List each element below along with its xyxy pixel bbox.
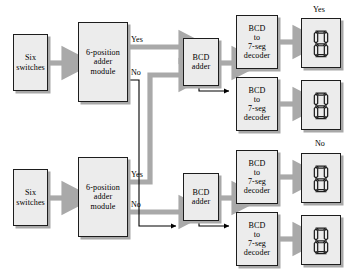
segment-g [317,106,326,108]
segment-f [314,94,317,105]
block-six-switches-top: Six switches [13,34,48,91]
segment-b [324,167,327,178]
block-line: 6-position [86,48,120,57]
block-bcd-to-7seg-decoder-2: BCD to 7-seg decoder [236,77,278,131]
label-display-group-no: No [315,139,325,148]
block-line: BCD [244,221,270,230]
block-bcd-to-7seg-decoder-3: BCD to 7-seg decoder [236,150,278,204]
block-6-position-adder-module-bottom: 6-position adder module [78,157,128,237]
segment-g [317,241,326,243]
block-line: switches [16,63,45,72]
block-bcd-to-7seg-decoder-4: BCD to 7-seg decoder [236,212,278,266]
segment-g [317,179,326,181]
block-line: BCD [244,159,270,168]
block-bcd-to-7seg-decoder-1: BCD to 7-seg decoder [236,15,278,69]
block-line: module [86,202,120,211]
arrow-bottom-yes-to-bcd-adder-top [127,75,180,182]
segment-e [314,242,317,253]
label-top-no-branch: No [131,68,141,77]
segment-c [324,107,327,118]
block-line: module [86,67,120,76]
block-line: switches [16,198,45,207]
block-line: Six [16,53,45,62]
segment-c [324,180,327,191]
seven-segment-digit-1 [302,19,340,67]
segment-e [314,107,317,118]
block-line: adder [192,197,210,206]
segment-c [324,242,327,253]
block-line: 7-seg [244,42,270,51]
segment-a [317,31,326,33]
seven-segment-display-no-ones [301,215,341,265]
block-line: 7-seg [244,104,270,113]
segment-a [317,166,326,168]
block-bcd-adder-bottom: BCD adder [183,173,219,221]
segment-d [317,117,326,119]
block-diagram-canvas: Six switches 6-position adder module BCD… [0,0,356,271]
segment-a [317,228,326,230]
seven-segment-display-yes-tens [301,18,341,68]
block-line: to [244,168,270,177]
block-line: to [244,33,270,42]
segment-e [314,180,317,191]
block-line: BCD [192,53,210,62]
block-line: to [244,230,270,239]
segment-f [314,167,317,178]
segment-a [317,93,326,95]
segment-g [317,44,326,46]
segment-e [314,45,317,56]
segment-c [324,45,327,56]
block-line: BCD [244,86,270,95]
seven-segment-display-no-tens [301,153,341,203]
block-line: adder [86,192,120,201]
block-bcd-adder-top: BCD adder [183,38,219,86]
seven-segment-digit-2 [302,81,340,129]
label-display-group-yes: Yes [313,5,325,14]
block-line: decoder [244,248,270,257]
block-six-switches-bottom: Six switches [13,169,48,226]
seven-segment-digit-3 [302,154,340,202]
segment-f [314,229,317,240]
block-line: adder [86,57,120,66]
block-line: decoder [244,113,270,122]
segment-f [314,32,317,43]
segment-d [317,190,326,192]
block-line: 7-seg [244,239,270,248]
block-line: BCD [244,24,270,33]
block-line: 6-position [86,183,120,192]
block-line: BCD [192,188,210,197]
block-line: Six [16,188,45,197]
segment-d [317,252,326,254]
block-line: adder [192,62,210,71]
block-line: decoder [244,51,270,60]
segment-d [317,55,326,57]
seven-segment-digit-4 [302,216,340,264]
block-line: to [244,95,270,104]
segment-b [324,94,327,105]
block-line: 7-seg [244,177,270,186]
block-6-position-adder-module-top: 6-position adder module [78,22,128,102]
seven-segment-display-yes-ones [301,80,341,130]
block-line: decoder [244,186,270,195]
label-bottom-yes-branch: Yes [131,170,143,179]
label-top-yes-branch: Yes [131,35,143,44]
segment-b [324,229,327,240]
label-bottom-no-branch: No [131,200,141,209]
segment-b [324,32,327,43]
